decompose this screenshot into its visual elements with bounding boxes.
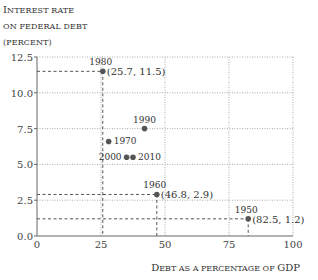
point-year-label: 1990 [133, 115, 156, 125]
x-tick-label: 75 [223, 239, 236, 250]
point-year-label: 2010 [138, 152, 161, 162]
x-tick-label: 0 [34, 239, 40, 250]
x-tick-label: 50 [159, 239, 172, 250]
data-point-2010 [130, 154, 136, 160]
x-axis-title: DEBT AS A PERCENTAGE OF GDP [151, 262, 300, 273]
data-point-1970 [106, 139, 112, 145]
data-point-1960 [154, 192, 160, 198]
y-tick-label: 10.0 [11, 88, 33, 99]
point-year-label: 1970 [114, 136, 137, 146]
point-coordinate-label: (25.7, 11.5) [107, 66, 166, 77]
x-tick-label: 25 [95, 239, 108, 250]
data-point-1950 [245, 216, 251, 222]
y-tick-label: 7.5 [17, 124, 33, 135]
point-coordinate-label: (46.8, 2.9) [161, 189, 213, 200]
data-point-1980 [100, 69, 106, 75]
x-tick-label: 100 [283, 239, 302, 250]
point-year-label: 2000 [99, 152, 122, 162]
point-coordinate-label: (82.5, 1.2) [252, 214, 304, 225]
y-tick-label: 0.0 [17, 231, 33, 242]
y-tick-label: 2.5 [17, 195, 33, 206]
scatter-plot: 0.02.55.07.510.012.502550751001950(82.5,… [0, 0, 318, 280]
y-tick-label: 12.5 [11, 52, 33, 63]
y-tick-label: 5.0 [17, 159, 33, 170]
data-point-2000 [124, 154, 130, 160]
data-point-1990 [142, 126, 148, 132]
